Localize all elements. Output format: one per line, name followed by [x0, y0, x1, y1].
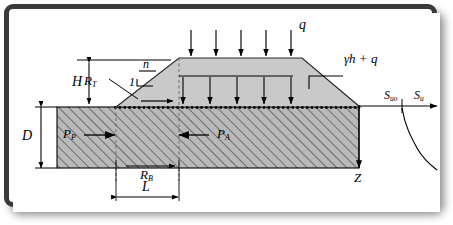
label-resistance-base-RB: RB — [140, 168, 153, 183]
label-su-sub: u — [420, 94, 424, 103]
label-slope-rise-1: 1 — [129, 76, 135, 88]
label-active-force-PA: PA — [217, 127, 230, 142]
label-surcharge-q: q — [299, 18, 306, 32]
label-RB-sub: B — [148, 174, 153, 183]
label-RT-base: R — [84, 73, 92, 88]
label-height-H: H — [72, 75, 82, 89]
label-su: Su — [414, 89, 424, 102]
label-PP-base: P — [63, 126, 71, 141]
label-suo-sub: uo — [390, 94, 397, 103]
label-slope-run-n: n — [143, 58, 149, 70]
foundation-soil-layer — [57, 107, 359, 168]
label-depth-axis-Z: Z — [354, 171, 361, 184]
embankment-body — [116, 58, 360, 107]
label-depth-D: D — [22, 129, 32, 143]
label-PA-base: P — [217, 126, 225, 141]
label-PP-sub: P — [71, 133, 76, 142]
surcharge-arrows — [191, 30, 291, 56]
label-RB-base: R — [140, 167, 148, 182]
depth-dimension — [35, 107, 57, 168]
label-gamma-h-plus-q: γh + q — [344, 52, 377, 65]
label-RT-sub: T — [92, 80, 96, 89]
strength-profile-axis — [359, 99, 437, 113]
label-PA-sub: A — [225, 133, 230, 142]
diagram-svg — [13, 13, 440, 212]
strength-profile-curve — [402, 108, 437, 170]
screenshot-frame: q γh + q H D L 1 n RT RB PP PA Z Suo Su — [0, 0, 453, 224]
label-passive-force-PP: PP — [63, 127, 76, 142]
label-su-surface: Suo — [384, 89, 397, 102]
label-resistance-top-RT: RT — [84, 74, 96, 89]
diagram-canvas: q γh + q H D L 1 n RT RB PP PA Z Suo Su — [13, 13, 440, 212]
